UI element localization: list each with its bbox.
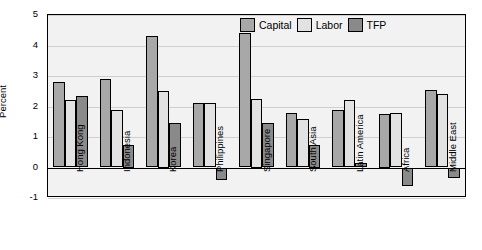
x-axis-category-labels: Hong KongIndonesiaKoreaPhilippinesSingap… <box>47 166 466 248</box>
legend-item-tfp: TFP <box>348 18 387 32</box>
x-axis-label: South Asia <box>307 127 318 172</box>
legend-swatch-capital-icon <box>240 18 255 32</box>
y-axis-tick-label: 1 <box>8 130 38 141</box>
legend-label: TFP <box>367 19 387 31</box>
bar-capital <box>53 82 65 167</box>
bar-capital <box>100 79 112 167</box>
chart-legend: CapitalLaborTFP <box>240 16 386 34</box>
bar-chart: Percent 543210-1 Hong KongIndonesiaKorea… <box>0 0 482 250</box>
bar-capital <box>146 36 158 167</box>
x-axis-label: Africa <box>400 148 411 172</box>
bar-capital <box>239 33 251 167</box>
bar-capital <box>286 113 298 168</box>
x-axis-label: Indonesia <box>121 131 132 172</box>
y-axis: Percent 543210-1 <box>0 0 47 250</box>
x-axis-label: Hong Kong <box>74 124 85 172</box>
legend-swatch-labor-icon <box>297 18 312 32</box>
y-axis-tick-label: 0 <box>8 161 38 172</box>
y-axis-tick-label: 4 <box>8 39 38 50</box>
legend-label: Labor <box>316 19 343 31</box>
y-axis-title: Percent <box>0 85 8 118</box>
x-axis-label: Korea <box>167 147 178 172</box>
y-axis-tick-label: 2 <box>8 100 38 111</box>
x-axis-label: Philippines <box>214 126 225 172</box>
x-axis-label: Middle East <box>447 122 458 172</box>
x-axis-label: Singapore <box>261 129 272 172</box>
legend-label: Capital <box>259 19 292 31</box>
y-axis-tick-label: 5 <box>8 8 38 19</box>
y-axis-tick-label: 3 <box>8 69 38 80</box>
y-axis-tick-label: -1 <box>8 191 38 202</box>
legend-item-labor: Labor <box>297 18 343 32</box>
x-axis-label: Latin America <box>354 114 365 172</box>
bar-capital <box>332 110 344 168</box>
bar-capital <box>425 90 437 168</box>
legend-item-capital: Capital <box>240 18 292 32</box>
bar-capital <box>193 103 205 167</box>
bar-capital <box>379 114 391 167</box>
legend-swatch-tfp-icon <box>348 18 363 32</box>
